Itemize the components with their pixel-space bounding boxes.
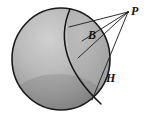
geometry-figure: P B H (0, 0, 147, 116)
point-P-marker (127, 11, 129, 13)
figure-canvas (0, 0, 147, 116)
point-label-b: B (88, 29, 96, 41)
point-label-h: H (106, 72, 115, 84)
point-label-p: P (131, 5, 138, 17)
